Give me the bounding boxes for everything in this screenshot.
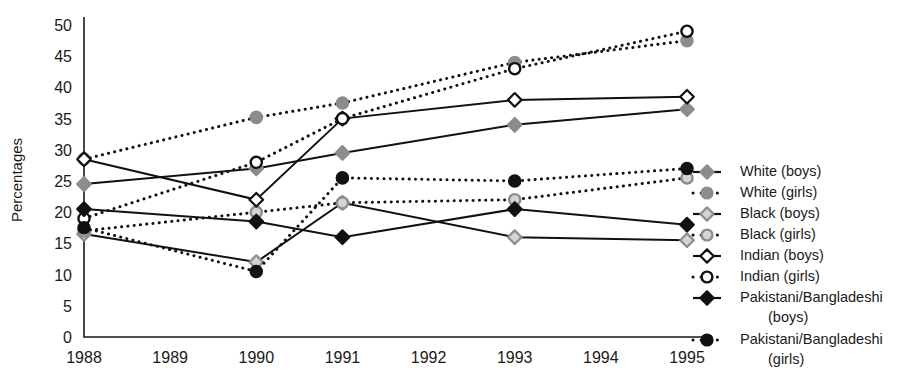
y-axis-tick-labels: 05101520253035404550 [54, 17, 72, 346]
series-5 [78, 26, 692, 224]
data-point-marker [702, 188, 713, 199]
data-point-marker [509, 175, 520, 186]
data-point-marker [508, 93, 522, 107]
data-point-marker [681, 26, 692, 37]
series-6 [77, 202, 694, 244]
x-tick-label: 1995 [669, 349, 705, 366]
series-line [84, 178, 687, 231]
series-line [84, 203, 687, 262]
data-point-marker [680, 90, 694, 104]
y-tick-label: 10 [54, 267, 72, 284]
legend-item-2[interactable]: Black (boys) [693, 205, 820, 221]
series-line [84, 31, 687, 218]
legend-label: Black (girls) [740, 226, 816, 242]
x-tick-label: 1989 [152, 349, 188, 366]
data-point-marker [337, 197, 348, 208]
series-4 [77, 90, 694, 207]
legend-item-4[interactable]: Indian (boys) [693, 247, 824, 263]
x-tick-label: 1994 [583, 349, 619, 366]
data-point-marker [336, 230, 350, 244]
series-0 [77, 102, 694, 190]
data-point-marker [77, 177, 91, 191]
data-point-marker [251, 266, 262, 277]
series-3 [78, 172, 692, 236]
y-tick-label: 15 [54, 235, 72, 252]
legend-label-line2: (girls) [768, 351, 804, 367]
y-tick-label: 0 [63, 329, 72, 346]
legend-item-0[interactable]: White (boys) [693, 163, 821, 179]
x-tick-label: 1990 [238, 349, 274, 366]
y-tick-label: 30 [54, 142, 72, 159]
y-tick-label: 45 [54, 48, 72, 65]
y-tick-label: 20 [54, 204, 72, 221]
data-point-marker [700, 207, 713, 220]
legend-label: Pakistani/Bangladeshi [740, 331, 883, 347]
data-point-marker [509, 63, 520, 74]
x-axis-tick-labels: 19881989199019911992199319941995 [66, 349, 705, 366]
legend-label: Indian (boys) [740, 247, 824, 263]
data-point-marker [251, 112, 262, 123]
series-line [84, 109, 687, 184]
legend-label: White (boys) [740, 163, 821, 179]
chart-container: 05101520253035404550 1988198919901991199… [0, 0, 904, 382]
series-2 [77, 196, 694, 269]
data-point-marker [337, 113, 348, 124]
x-tick-label: 1988 [66, 349, 102, 366]
legend-item-1[interactable]: White (girls) [693, 184, 817, 200]
plot-area: 05101520253035404550 1988198919901991199… [8, 17, 883, 367]
data-point-marker [336, 146, 350, 160]
line-chart: 05101520253035404550 1988198919901991199… [0, 0, 904, 382]
data-point-marker [251, 157, 262, 168]
legend-item-6[interactable]: Pakistani/Bangladeshi(boys) [693, 289, 883, 325]
data-point-marker [700, 165, 713, 178]
legend-label: Pakistani/Bangladeshi [740, 289, 883, 305]
x-tick-label: 1993 [497, 349, 533, 366]
axes [84, 17, 707, 337]
y-tick-label: 40 [54, 79, 72, 96]
legend-item-3[interactable]: Black (girls) [693, 226, 816, 242]
data-point-marker [700, 249, 713, 262]
legend-label: Black (boys) [740, 205, 820, 221]
data-point-marker [508, 230, 522, 244]
legend-item-5[interactable]: Indian (girls) [693, 268, 820, 284]
y-tick-label: 25 [54, 173, 72, 190]
y-tick-label: 35 [54, 111, 72, 128]
axis-lines [84, 17, 707, 337]
data-point-marker [337, 172, 348, 183]
data-point-marker [702, 335, 713, 346]
data-point-marker [337, 97, 348, 108]
data-point-marker [702, 230, 713, 241]
data-point-marker [702, 272, 713, 283]
series-line [84, 169, 687, 272]
data-point-marker [78, 222, 89, 233]
x-tick-label: 1992 [411, 349, 447, 366]
x-tick-label: 1991 [325, 349, 361, 366]
legend-label: Indian (girls) [740, 268, 820, 284]
data-point-marker [700, 291, 713, 304]
series-line [84, 41, 687, 160]
legend-item-7[interactable]: Pakistani/Bangladeshi(girls) [693, 331, 883, 367]
data-point-marker [681, 163, 692, 174]
legend-label: White (girls) [740, 184, 817, 200]
y-tick-label: 50 [54, 17, 72, 34]
series-line [84, 209, 687, 237]
series-line [84, 97, 687, 200]
y-axis-title: Percentages [8, 138, 25, 222]
y-tick-label: 5 [63, 298, 72, 315]
data-series [77, 26, 694, 277]
data-point-marker [680, 218, 694, 232]
legend-label-line2: (boys) [768, 309, 808, 325]
data-point-marker [508, 118, 522, 132]
chart-legend: White (boys)White (girls)Black (boys)Bla… [693, 163, 883, 367]
